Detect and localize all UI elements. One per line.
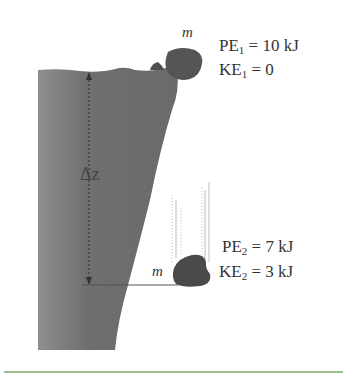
pebble bbox=[150, 62, 164, 70]
bottom-mass-label: m bbox=[152, 263, 163, 280]
motion-streaks bbox=[172, 182, 209, 262]
top-mass-label: m bbox=[182, 24, 193, 41]
top-rock bbox=[165, 48, 202, 80]
ke1-value: = 0 bbox=[247, 60, 274, 79]
bottom-kinetic-energy: KE2 = 3 kJ bbox=[219, 262, 293, 282]
top-potential-energy: PE1 = 10 kJ bbox=[219, 36, 299, 56]
ke1-label: KE bbox=[219, 60, 242, 79]
pe1-label: PE bbox=[219, 36, 239, 55]
ke2-value: = 3 kJ bbox=[247, 262, 293, 281]
top-kinetic-energy: KE1 = 0 bbox=[219, 60, 274, 80]
bottom-potential-energy: PE2 = 7 kJ bbox=[222, 237, 293, 257]
pe1-value: = 10 kJ bbox=[244, 36, 298, 55]
pe2-value: = 7 kJ bbox=[247, 237, 293, 256]
cliff-diagram bbox=[0, 0, 343, 382]
pe2-label: PE bbox=[222, 237, 242, 256]
ke2-label: KE bbox=[219, 262, 242, 281]
height-change-label: Δz bbox=[80, 164, 100, 185]
bottom-rock bbox=[173, 255, 210, 287]
cliff bbox=[38, 68, 178, 350]
